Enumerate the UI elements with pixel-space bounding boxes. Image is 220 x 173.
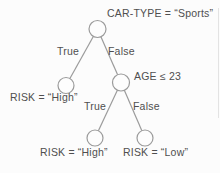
edge-label-false-top: False	[108, 46, 135, 57]
edge-label-false-bottom: False	[133, 101, 160, 112]
edge-label-true-top: True	[57, 46, 79, 57]
node-root-car-type	[89, 21, 106, 38]
node-risk-low-bottom	[137, 130, 153, 146]
age-condition-label: AGE ≤ 23	[134, 71, 181, 82]
node-risk-high-bottom	[87, 130, 103, 146]
root-condition-label: CAR-TYPE = “Sports”	[107, 8, 213, 19]
leaf-label-risk-high-bottom: RISK = “High”	[40, 147, 108, 158]
leaf-label-risk-high-left: RISK = “High”	[10, 92, 78, 103]
edge-label-true-bottom: True	[84, 101, 106, 112]
decision-tree-figure: CAR-TYPE = “Sports” True False AGE ≤ 23 …	[0, 0, 220, 173]
leaf-label-risk-low-bottom: RISK = “Low”	[123, 147, 188, 158]
edge-root-to-risk-high-left	[66, 29, 98, 86]
node-age	[113, 74, 130, 91]
scan-edge-artifact	[218, 8, 220, 118]
